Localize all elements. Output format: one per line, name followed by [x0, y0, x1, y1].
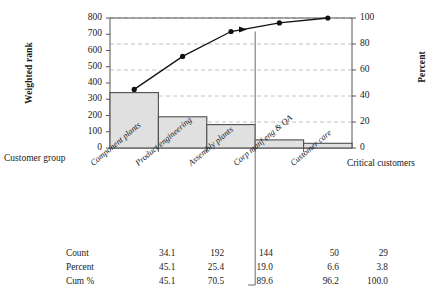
- table-row: Count 34.1 192 144 50 29: [60, 246, 390, 260]
- count-customer-care: 29: [341, 246, 390, 260]
- percent-component-plants: 45.1: [129, 260, 178, 274]
- y-tick-left-300: 300: [72, 94, 102, 104]
- y-tick-right-80: 80: [360, 39, 390, 49]
- row-label-cum-percent: Cum %: [60, 274, 129, 288]
- y-tick-right-20: 20: [360, 117, 390, 127]
- count-assembly-plants: 144: [226, 246, 275, 260]
- cutoff-arrow-icon: [239, 27, 247, 33]
- y-tick-right-40: 40: [360, 91, 390, 101]
- cum-percent-component-plants: 45.1: [129, 274, 178, 288]
- percent-corp-manf-eng-qa: 6.6: [292, 260, 341, 274]
- y-axis-right-title: Percent: [417, 19, 427, 115]
- y-axis-left-title: Weighted rank: [24, 25, 34, 121]
- marker-point-2: [180, 54, 185, 59]
- y-tick-left-200: 200: [72, 111, 102, 121]
- y-tick-right-60: 60: [360, 65, 390, 75]
- percent-assembly-plants: 19.0: [226, 260, 275, 274]
- y-tick-right-100: 100: [360, 13, 390, 23]
- y-tick-left-500: 500: [72, 62, 102, 72]
- y-tick-left-400: 400: [72, 78, 102, 88]
- marker-point-3: [228, 29, 233, 34]
- x-category-label-critical-customers: Critical customers: [347, 158, 415, 168]
- cumulative-line: [134, 18, 328, 89]
- marker-point-5: [325, 15, 330, 20]
- count-component-plants: 34.1: [129, 246, 178, 260]
- cumulative-markers: [132, 15, 331, 92]
- left-axis-ticks: [106, 18, 110, 148]
- marker-point-4: [277, 20, 282, 25]
- y-tick-left-600: 600: [72, 46, 102, 56]
- table-divider-gap: [275, 246, 292, 260]
- count-product-engineering: 192: [177, 246, 226, 260]
- cum-percent-product-engineering: 70.5: [177, 274, 226, 288]
- y-tick-right-0: 0: [360, 143, 390, 153]
- pareto-statistics-table: Count 34.1 192 144 50 29 Percent 45.1 25…: [60, 246, 390, 288]
- y-tick-left-800: 800: [72, 13, 102, 23]
- table-row: Cum % 45.1 70.5 89.6 96.2 100.0: [60, 274, 390, 288]
- percent-customer-care: 3.8: [341, 260, 390, 274]
- y-tick-left-100: 100: [72, 127, 102, 137]
- cum-percent-corp-manf-eng-qa: 96.2: [292, 274, 341, 288]
- right-axis-ticks: [352, 18, 356, 148]
- marker-point-1: [132, 87, 137, 92]
- y-tick-left-700: 700: [72, 29, 102, 39]
- row-label-percent: Percent: [60, 260, 129, 274]
- x-axis-title: Customer group: [4, 153, 65, 163]
- x-axis-ticks: [158, 148, 303, 152]
- table-divider-gap: [275, 260, 292, 274]
- table-row: Percent 45.1 25.4 19.0 6.6 3.8: [60, 260, 390, 274]
- pareto-chart: Weighted rank Percent Customer group 800…: [0, 0, 441, 302]
- cum-percent-assembly-plants: 89.6: [226, 274, 275, 288]
- count-corp-manf-eng-qa: 50: [292, 246, 341, 260]
- cum-percent-customer-care: 100.0: [341, 274, 390, 288]
- table-divider-gap: [275, 274, 292, 288]
- percent-product-engineering: 25.4: [177, 260, 226, 274]
- row-label-count: Count: [60, 246, 129, 260]
